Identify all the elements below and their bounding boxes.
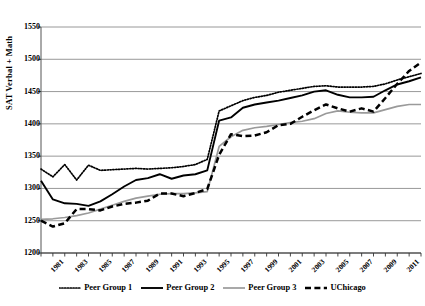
series-line-peer-group-2 — [41, 77, 421, 205]
legend-item-peer-group-1[interactable]: Peer Group 1 — [59, 283, 132, 292]
y-tick-label: 1400 — [14, 120, 40, 128]
series-line-peer-group-1 — [41, 73, 421, 180]
legend-label: Peer Group 2 — [166, 283, 214, 292]
plot-area — [0, 0, 425, 306]
y-tick-label: 1500 — [14, 55, 40, 63]
legend-label: Peer Group 1 — [84, 283, 132, 292]
y-tick-label: 1450 — [14, 88, 40, 96]
legend-swatch-icon — [305, 284, 327, 292]
sat-score-line-chart: SAT Verbal + Math 1200125013001350140014… — [0, 0, 425, 306]
legend-swatch-icon — [141, 284, 163, 292]
legend-swatch-icon — [223, 284, 245, 292]
y-tick-label: 1550 — [14, 23, 40, 31]
legend-item-peer-group-2[interactable]: Peer Group 2 — [141, 283, 214, 292]
legend-item-peer-group-3[interactable]: Peer Group 3 — [223, 283, 296, 292]
y-tick-label: 1250 — [14, 217, 40, 225]
y-tick-label: 1200 — [14, 249, 40, 257]
y-tick-label: 1350 — [14, 152, 40, 160]
chart-legend: Peer Group 1Peer Group 2Peer Group 3UChi… — [0, 283, 425, 292]
legend-label: Peer Group 3 — [248, 283, 296, 292]
y-tick-label: 1300 — [14, 184, 40, 192]
legend-label: UChicago — [330, 283, 365, 292]
legend-item-uchicago[interactable]: UChicago — [305, 283, 365, 292]
y-axis-tick-labels: 12001250130013501400145015001550 — [14, 0, 40, 306]
legend-swatch-icon — [59, 284, 81, 292]
